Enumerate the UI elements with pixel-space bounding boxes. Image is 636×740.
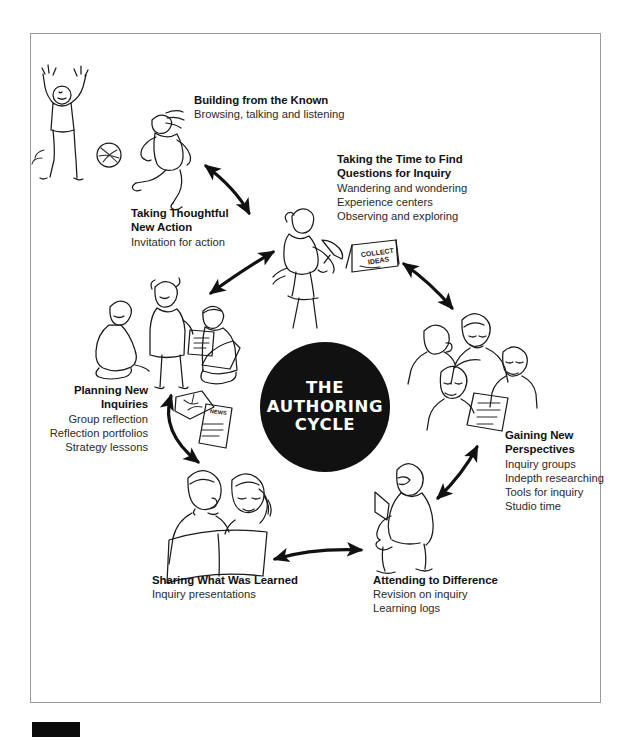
label-taking-the-time-to-find-questions: Taking the Time to Find Questions for In… xyxy=(337,152,467,223)
label-detail: Observing and exploring xyxy=(337,209,467,223)
arrow-action-to-center xyxy=(211,252,273,293)
label-taking-thoughtful-new-action: Taking Thoughtful New Action Invitation … xyxy=(131,206,229,249)
center-disc-text: THE AUTHORING CYCLE xyxy=(267,379,383,435)
label-heading: Attending to Difference xyxy=(373,573,498,587)
label-heading: Sharing What Was Learned xyxy=(152,573,298,587)
label-detail: Group reflection xyxy=(24,412,148,426)
label-detail: Wandering and wondering xyxy=(337,181,467,195)
label-heading-line2: Questions for Inquiry xyxy=(337,166,467,180)
arrow-planning-to-sharing xyxy=(169,396,198,462)
label-attending-to-difference: Attending to Difference Revision on inqu… xyxy=(373,573,498,616)
label-detail: Inquiry groups xyxy=(505,457,604,471)
label-heading-line1: Taking the Time to Find xyxy=(337,152,467,166)
label-sharing-what-was-learned: Sharing What Was Learned Inquiry present… xyxy=(152,573,298,601)
small-group-reflecting-illustration xyxy=(96,278,240,389)
label-planning-new-inquiries: Planning New Inquiries Group reflection … xyxy=(24,383,148,454)
center-line-1: THE xyxy=(267,379,383,398)
label-detail: Invitation for action xyxy=(131,235,229,249)
label-detail: Studio time xyxy=(505,499,604,513)
center-line-3: CYCLE xyxy=(267,416,383,435)
center-line-2: AUTHORING xyxy=(267,398,383,417)
label-gaining-new-perspectives: Gaining New Perspectives Inquiry groups … xyxy=(505,428,604,513)
label-heading-line1: Planning New xyxy=(24,383,148,397)
label-detail: Revision on inquiry xyxy=(373,587,498,601)
label-detail: Experience centers xyxy=(337,195,467,209)
cheering-person-illustration xyxy=(32,65,88,180)
diagram-page: .ln{fill:none;stroke:#1a1a1a;stroke-widt… xyxy=(0,0,636,740)
person-with-easel-illustration xyxy=(273,209,343,328)
label-heading-line1: Gaining New xyxy=(505,428,604,442)
label-heading-line2: Inquiries xyxy=(24,397,148,411)
label-detail: Tools for inquiry xyxy=(505,485,604,499)
arrow-center-to-perspectives xyxy=(404,264,452,308)
label-detail: Browsing, talking and listening xyxy=(194,107,345,121)
label-heading-line1: Taking Thoughtful xyxy=(131,206,229,220)
arrow-sharing-to-attending xyxy=(275,550,361,559)
center-disc: THE AUTHORING CYCLE xyxy=(260,342,390,472)
seated-person-writing-illustration xyxy=(375,464,433,574)
news-papers-illustration xyxy=(175,391,232,448)
label-heading: Building from the Known xyxy=(194,93,345,107)
arrow-perspectives-to-attending xyxy=(438,447,477,498)
label-heading-line2: Perspectives xyxy=(505,442,604,456)
two-people-sharing-book-illustration xyxy=(167,471,271,583)
label-detail: Indepth researching xyxy=(505,471,604,485)
person-kicking-ball-illustration xyxy=(97,111,191,210)
group-of-four-illustration xyxy=(408,314,537,431)
label-detail: Reflection portfolios xyxy=(24,426,148,440)
label-detail: Inquiry presentations xyxy=(152,587,298,601)
label-detail: Learning logs xyxy=(373,601,498,615)
label-building-from-the-known: Building from the Known Browsing, talkin… xyxy=(194,93,345,121)
label-heading-line2: New Action xyxy=(131,220,229,234)
label-detail: Strategy lessons xyxy=(24,440,148,454)
